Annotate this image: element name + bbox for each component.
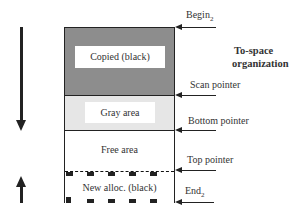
begin-pointer-line: [181, 27, 216, 29]
new-alloc-label: New alloc. (black): [65, 181, 174, 195]
end-pointer-line: [181, 202, 214, 204]
down-arrow-icon: [16, 120, 26, 131]
end-pointer-label: End2: [185, 185, 205, 199]
alloc-block: [129, 199, 136, 203]
copied-label: Copied (black): [75, 46, 165, 68]
gray-region: Gray area: [65, 96, 174, 131]
begin-pointer-label: Begin2: [186, 9, 213, 23]
alloc-block: [108, 172, 115, 176]
alloc-block: [87, 199, 94, 203]
alloc-block: [87, 172, 94, 176]
new-alloc-region: New alloc. (black): [65, 171, 174, 203]
begin-text: Begin: [186, 9, 210, 20]
alloc-block: [129, 172, 136, 176]
alloc-block: [150, 172, 157, 176]
bottom-pointer-label: Bottom pointer: [188, 115, 249, 126]
title-line-2: organization: [232, 57, 289, 70]
copied-region: Copied (black): [65, 28, 174, 96]
alloc-block: [66, 172, 73, 176]
down-arrow-shaft: [20, 27, 23, 122]
scan-pointer-label: Scan pointer: [190, 79, 240, 90]
alloc-block: [108, 199, 115, 203]
alloc-block: [66, 197, 71, 203]
end-text: End: [185, 185, 201, 196]
gray-label: Gray area: [85, 102, 155, 123]
scan-pointer-line: [181, 95, 216, 97]
free-label: Free area: [65, 141, 174, 159]
bottom-pointer-line: [181, 130, 216, 132]
free-region: Free area: [65, 131, 174, 171]
to-space-box: Copied (black) Gray area Free area New a…: [64, 27, 175, 203]
top-pointer-line: [181, 170, 216, 172]
begin-subscript: 2: [210, 15, 214, 23]
alloc-block: [150, 199, 157, 203]
title-line-1: To-space: [234, 44, 289, 57]
up-arrow-shaft: [20, 186, 23, 203]
diagram-title: To-space organization: [234, 44, 289, 70]
end-subscript: 2: [201, 191, 205, 199]
top-pointer-label: Top pointer: [187, 154, 233, 165]
